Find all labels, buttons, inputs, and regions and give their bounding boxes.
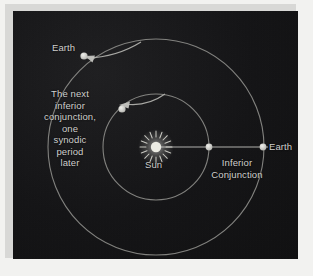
next-conjunction-line3: conjunction, — [25, 111, 115, 123]
image-frame: Earth Earth Sun Inferior Conjunction The… — [5, 4, 296, 258]
label-next-inferior-conjunction: The next inferior conjunction, one synod… — [25, 88, 115, 169]
label-inferior-conjunction-line1: Inferior — [194, 157, 280, 169]
next-conjunction-line7: later — [25, 157, 115, 169]
inner-planet-marker-inferior-conjunction[interactable] — [206, 144, 213, 151]
next-conjunction-line5: synodic — [25, 134, 115, 146]
earth-marker-one-synodic-period-later[interactable] — [80, 52, 87, 59]
label-inferior-conjunction: Inferior Conjunction — [194, 157, 280, 180]
next-conjunction-line1: The next — [25, 88, 115, 100]
earth-orbit-motion-arrow — [87, 42, 141, 58]
inner-planet-marker-one-synodic-period-later[interactable] — [118, 105, 125, 112]
earth-marker-inferior-conjunction[interactable] — [260, 144, 267, 151]
label-earth-right: Earth — [269, 141, 292, 153]
label-inferior-conjunction-line2: Conjunction — [194, 169, 280, 181]
next-conjunction-line6: period — [25, 146, 115, 158]
next-conjunction-line4: one — [25, 123, 115, 135]
label-earth-upper: Earth — [52, 42, 75, 54]
label-sun: Sun — [145, 159, 162, 171]
sun-disc — [151, 142, 161, 152]
next-conjunction-line2: inferior — [25, 100, 115, 112]
sky-background: Earth Earth Sun Inferior Conjunction The… — [13, 11, 298, 259]
orbit-diagram-figure: Earth Earth Sun Inferior Conjunction The… — [0, 0, 313, 276]
